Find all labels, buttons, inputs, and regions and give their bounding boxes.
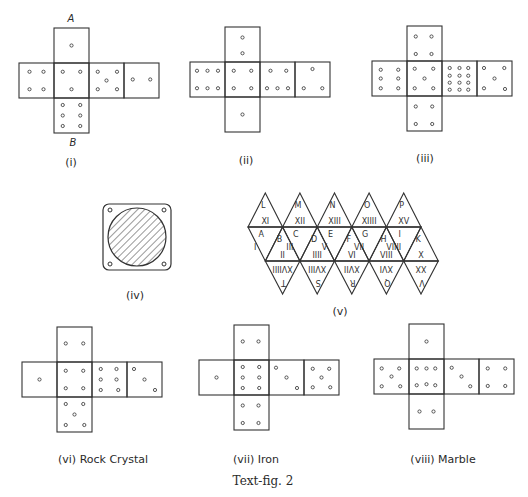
- pip-icon: [105, 79, 108, 82]
- tile-corner-hole-bl: [108, 262, 112, 266]
- face-left: [22, 362, 57, 397]
- ico-numeral: XVIIII: [272, 264, 292, 273]
- figure-v-icosahedron-net: LXIAIBIIXVIIIITMXIICIIIDIIIIXVIIISNXIIIE…: [248, 193, 438, 294]
- pip-icon: [64, 369, 67, 372]
- ico-numeral: II: [280, 251, 285, 260]
- ico-numeral: VII: [354, 243, 364, 252]
- pip-icon: [398, 367, 401, 370]
- face-center: [234, 360, 269, 395]
- pip-icon: [99, 378, 102, 381]
- face-center: [57, 362, 92, 397]
- face-label-a: A: [68, 13, 75, 24]
- pip-icon: [311, 367, 314, 370]
- pip-icon: [215, 376, 218, 379]
- pip-icon: [425, 367, 428, 370]
- pip-icon: [70, 88, 73, 91]
- pip-icon: [414, 122, 417, 125]
- pip-icon: [311, 386, 314, 389]
- pip-icon: [503, 87, 506, 90]
- face-top: [54, 28, 89, 63]
- ico-letter: P: [399, 201, 404, 210]
- pip-icon: [82, 387, 85, 390]
- pip-icon: [82, 402, 85, 405]
- pip-icon: [379, 77, 382, 80]
- pip-icon: [397, 87, 400, 90]
- ico-letter: M: [294, 201, 301, 210]
- ico-letter: L: [261, 201, 266, 210]
- pip-icon: [258, 365, 261, 368]
- ico-numeral: XV: [398, 217, 409, 226]
- pip-icon: [434, 384, 437, 387]
- pip-icon: [460, 375, 463, 378]
- pip-icon: [458, 74, 461, 77]
- pip-icon: [83, 423, 86, 426]
- face-far_right: [479, 359, 514, 394]
- pip-icon: [257, 404, 260, 407]
- pip-icon: [504, 384, 507, 387]
- pip-icon: [250, 69, 253, 72]
- face-left: [19, 63, 54, 98]
- text-fig-2-diagram: LXIAIBIIXVIIIITMXIICIIIDIIIIXVIIISNXIIIE…: [0, 0, 528, 497]
- pip-icon: [73, 413, 76, 416]
- face-left: [190, 62, 225, 97]
- ico-numeral: XVI: [380, 264, 393, 273]
- face-right: [92, 362, 127, 397]
- pip-icon: [390, 375, 393, 378]
- ico-numeral: XVII: [344, 264, 360, 273]
- pip-icon: [467, 74, 470, 77]
- pip-icon: [458, 81, 461, 84]
- ico-letter: C: [293, 230, 299, 239]
- pip-icon: [61, 124, 64, 127]
- ico-numeral: X: [418, 251, 424, 260]
- tile-corner-hole-br: [162, 262, 166, 266]
- pip-icon: [448, 81, 451, 84]
- pip-icon: [64, 402, 67, 405]
- face-far_right: [127, 362, 162, 397]
- ico-letter: F: [346, 235, 351, 244]
- pip-icon: [458, 88, 461, 91]
- pip-icon: [42, 88, 45, 91]
- pip-icon: [448, 66, 451, 69]
- ico-letter: O: [364, 201, 370, 210]
- ico-numeral: VIIII: [386, 243, 401, 252]
- pip-icon: [99, 367, 102, 370]
- pip-icon: [320, 376, 323, 379]
- pip-icon: [216, 87, 219, 90]
- pip-icon: [265, 87, 268, 90]
- ico-letter: V: [419, 278, 425, 287]
- pip-icon: [482, 87, 485, 90]
- pip-icon: [241, 52, 244, 55]
- pip-icon: [149, 78, 152, 81]
- pip-icon: [241, 386, 244, 389]
- pip-icon: [482, 66, 485, 69]
- ico-numeral: V: [322, 243, 328, 252]
- pip-icon: [241, 421, 244, 424]
- pip-icon: [418, 410, 421, 413]
- pip-icon: [276, 87, 279, 90]
- face-top: [234, 325, 269, 360]
- pip-icon: [79, 70, 82, 73]
- label-ii: (ii): [239, 154, 254, 167]
- pip-icon: [467, 66, 470, 69]
- pip-icon: [274, 366, 277, 369]
- pip-icon: [28, 88, 31, 91]
- face-top: [407, 26, 442, 61]
- pip-icon: [115, 378, 118, 381]
- ico-letter: A: [259, 230, 265, 239]
- face-center: [225, 62, 260, 97]
- pip-icon: [413, 67, 416, 70]
- pip-icon: [79, 114, 82, 117]
- ico-numeral: XVIII: [308, 264, 326, 273]
- pip-icon: [379, 87, 382, 90]
- face-bottom: [57, 397, 92, 432]
- pip-icon: [448, 88, 451, 91]
- face-bottom: [54, 98, 89, 133]
- face-far_right: [477, 61, 512, 96]
- pip-icon: [486, 367, 489, 370]
- pip-icon: [61, 103, 64, 106]
- face-label-b: B: [70, 137, 77, 148]
- pip-icon: [432, 87, 435, 90]
- face-bottom: [409, 394, 444, 429]
- pip-icon: [96, 88, 99, 91]
- pip-icon: [241, 113, 244, 116]
